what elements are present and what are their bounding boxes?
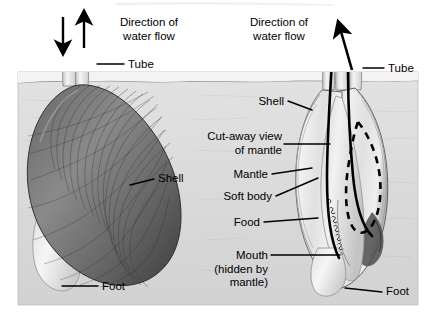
cutaway-line1: Cut-away view — [207, 130, 282, 142]
left-foot-label: Foot — [102, 280, 125, 293]
left-direction-label: Direction of water flow — [101, 16, 197, 43]
mouth-line1: Mouth — [236, 249, 268, 261]
left-direction-line1: Direction of — [120, 16, 178, 28]
left-direction-line2: water flow — [123, 30, 175, 42]
left-shell-label: Shell — [158, 172, 184, 185]
food-label: Food — [206, 216, 260, 229]
soft-body-label: Soft body — [192, 190, 272, 203]
left-flow-arrows — [63, 17, 84, 48]
mantle-label: Mantle — [204, 168, 268, 181]
right-direction-line2: water flow — [253, 30, 305, 42]
right-direction-line1: Direction of — [250, 16, 308, 28]
right-flow-arrow — [340, 28, 352, 70]
cutaway-label: Cut-away view of mantle — [186, 130, 282, 157]
scan-artifact — [115, 2, 336, 6]
mouth-line2: (hidden by mantle) — [214, 263, 268, 289]
left-tube-label: Tube — [128, 58, 154, 71]
right-shell-label: Shell — [240, 95, 284, 108]
cutaway-line2: of mantle — [235, 144, 282, 156]
right-direction-label: Direction of water flow — [231, 16, 327, 43]
mouth-label: Mouth (hidden by mantle) — [178, 249, 268, 290]
right-foot-label: Foot — [386, 285, 409, 298]
right-tube-label: Tube — [388, 62, 414, 75]
